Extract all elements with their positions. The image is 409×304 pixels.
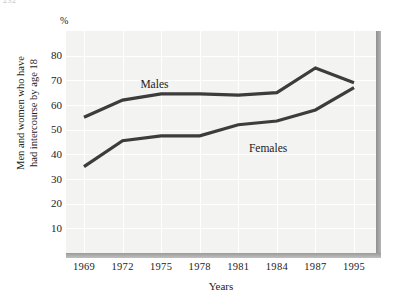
y-axis-unit-symbol: % <box>60 15 68 26</box>
series-label-males: Males <box>140 78 168 90</box>
x-tick-label: 1995 <box>332 261 376 272</box>
y-tick-label: 40 <box>40 149 62 160</box>
x-tick-label: 1987 <box>293 261 337 272</box>
y-tick-label: 60 <box>40 100 62 111</box>
y-axis-ticks: 1020304050607080 <box>38 31 62 253</box>
plot-area: Males Females <box>66 31 376 253</box>
x-tick-label: 1972 <box>101 261 145 272</box>
x-axis-bar <box>66 253 381 258</box>
series-layer <box>66 31 376 253</box>
y-tick-label: 70 <box>40 75 62 86</box>
y-tick-label: 10 <box>40 223 62 234</box>
y-tick-label: 30 <box>40 174 62 185</box>
y-axis-title-line2: had intercourse by age 18 <box>28 59 39 167</box>
chart-figure: 232 % Males Females 1020304050607080 196… <box>0 0 409 304</box>
y-tick-label: 50 <box>40 124 62 135</box>
series-label-females: Females <box>249 142 287 154</box>
panel-right-border <box>376 31 381 257</box>
x-axis-title: Years <box>66 280 376 292</box>
y-tick-label: 20 <box>40 198 62 209</box>
x-tick-label: 1981 <box>216 261 260 272</box>
page-number: 232 <box>3 0 17 5</box>
x-tick-label: 1969 <box>62 261 106 272</box>
y-tick-label: 80 <box>40 50 62 61</box>
x-tick-label: 1984 <box>255 261 299 272</box>
y-axis-title: Men and women who have had intercourse b… <box>14 13 40 213</box>
x-tick-label: 1975 <box>139 261 183 272</box>
y-axis-title-line1: Men and women who have <box>15 56 26 170</box>
x-axis-ticks: 19691972197519781981198419871995 <box>66 261 376 277</box>
x-tick-label: 1978 <box>178 261 222 272</box>
